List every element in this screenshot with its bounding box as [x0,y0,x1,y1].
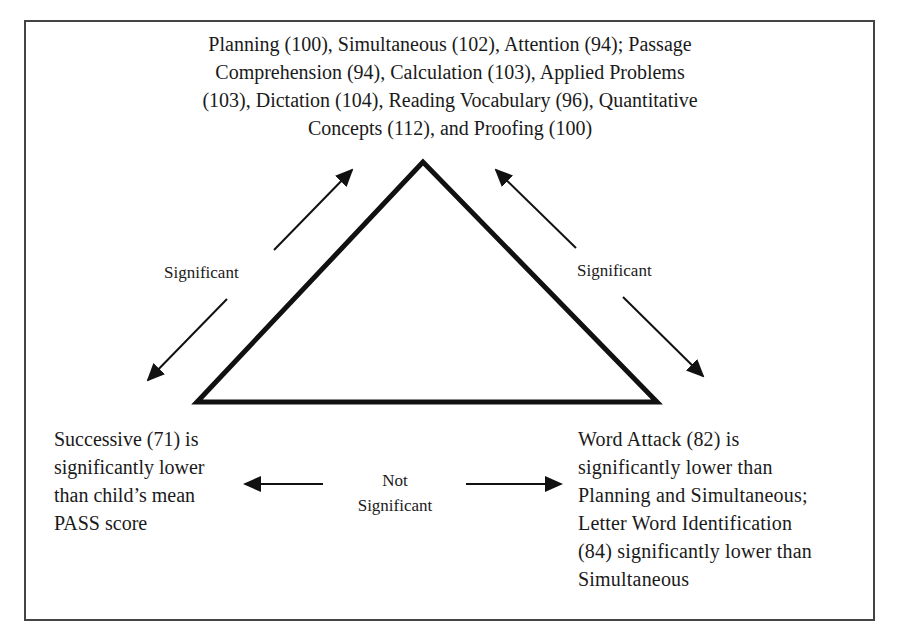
right-node-line: Planning and Simultaneous; [578,481,878,509]
left-edge-label: Significant [164,263,239,283]
right-node-line: Simultaneous [578,565,878,593]
arrow-left-down [148,299,227,380]
left-node-line: Successive (71) is [54,425,254,453]
arrow-left-up [274,170,352,250]
arrow-right-down [623,297,703,376]
top-node-line: Comprehension (94), Calculation (103), A… [100,58,800,86]
bottom-edge-label-line1: Not [335,468,455,493]
bottom-edge-label-line2: Significant [335,493,455,518]
right-node-line: significantly lower than [578,453,878,481]
top-node-text: Planning (100), Simultaneous (102), Atte… [100,30,800,142]
right-edge-label: Significant [577,261,652,281]
arrow-right-up [496,170,576,248]
top-node-line: Concepts (112), and Proofing (100) [100,114,800,142]
right-node-text: Word Attack (82) is significantly lower … [578,425,878,593]
top-node-line: Planning (100), Simultaneous (102), Atte… [100,30,800,58]
top-node-line: (103), Dictation (104), Reading Vocabula… [100,86,800,114]
right-node-line: Word Attack (82) is [578,425,878,453]
bottom-edge-label: Not Significant [335,468,455,518]
left-node-text: Successive (71) is significantly lower t… [54,425,254,537]
left-node-line: PASS score [54,509,254,537]
right-node-line: (84) significantly lower than [578,537,878,565]
triangle-shape [197,162,657,402]
right-node-line: Letter Word Identification [578,509,878,537]
left-node-line: than child’s mean [54,481,254,509]
left-node-line: significantly lower [54,453,254,481]
